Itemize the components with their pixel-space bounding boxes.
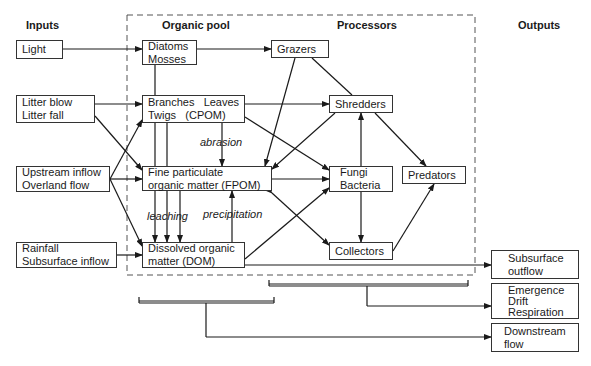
node-label: Dissolved organic — [148, 242, 239, 255]
node-label: Twigs (CPOM) — [148, 109, 239, 122]
node-label: Emergence — [508, 285, 573, 296]
node-label: Litter blow — [22, 96, 89, 109]
node-label: Light — [22, 43, 57, 56]
node-label: Diatoms — [148, 40, 191, 53]
leaching-label: leaching — [147, 210, 188, 222]
processors-header: Processors — [337, 19, 397, 31]
node-label: Subsurface — [508, 252, 573, 265]
node-label: Branches Leaves — [148, 96, 239, 109]
shredders-node: Shredders — [329, 95, 393, 113]
node-label: Mosses — [148, 53, 191, 66]
node-label: Predators — [408, 169, 460, 182]
node-label: Overland flow — [22, 179, 104, 192]
dom-node: Dissolved organic matter (DOM) — [142, 242, 245, 268]
node-label: Fungi — [340, 166, 387, 179]
rainfall-node: Rainfall Subsurface inflow — [16, 242, 117, 268]
node-label: Litter fall — [22, 109, 89, 122]
predators-node: Predators — [402, 166, 466, 184]
node-label: outflow — [508, 265, 573, 278]
diatoms-node: Diatoms Mosses — [142, 40, 197, 65]
node-label: Drift — [508, 296, 573, 307]
node-label: organic matter (FPOM) — [148, 179, 266, 192]
precipitation-label: precipitation — [203, 208, 262, 220]
inputs-header: Inputs — [26, 19, 59, 31]
upstream-node: Upstream inflow Overland flow — [16, 166, 110, 192]
fpom-node: Fine particulate organic matter (FPOM) — [142, 166, 272, 191]
node-label: Rainfall — [22, 242, 111, 255]
node-label: Respiration — [508, 307, 573, 318]
downstream-flow-node: Downstream flow — [491, 323, 579, 352]
node-label: Bacteria — [340, 179, 387, 192]
node-label: Subsurface inflow — [22, 255, 111, 268]
grazers-node: Grazers — [271, 40, 329, 58]
cpom-node: Branches Leaves Twigs (CPOM) — [142, 95, 245, 123]
node-label: Collectors — [335, 245, 387, 258]
organic-pool-header: Organic pool — [162, 19, 230, 31]
collectors-node: Collectors — [329, 242, 393, 260]
subsurface-outflow-node: Subsurface outflow — [491, 250, 579, 279]
node-label: matter (DOM) — [148, 255, 239, 268]
node-label: Shredders — [335, 98, 387, 111]
node-label: Grazers — [277, 43, 323, 56]
outputs-header: Outputs — [518, 19, 560, 31]
litter-node: Litter blow Litter fall — [16, 95, 95, 123]
node-label: Upstream inflow — [22, 166, 104, 179]
node-label: flow — [504, 338, 573, 351]
node-label: Downstream — [504, 325, 573, 338]
abrasion-label: abrasion — [200, 136, 242, 148]
emergence-node: Emergence Drift Respiration — [491, 283, 579, 319]
arrows — [63, 49, 491, 337]
fungi-node: Fungi Bacteria — [329, 166, 393, 192]
light-node: Light — [16, 40, 63, 59]
node-label: Fine particulate — [148, 166, 266, 179]
